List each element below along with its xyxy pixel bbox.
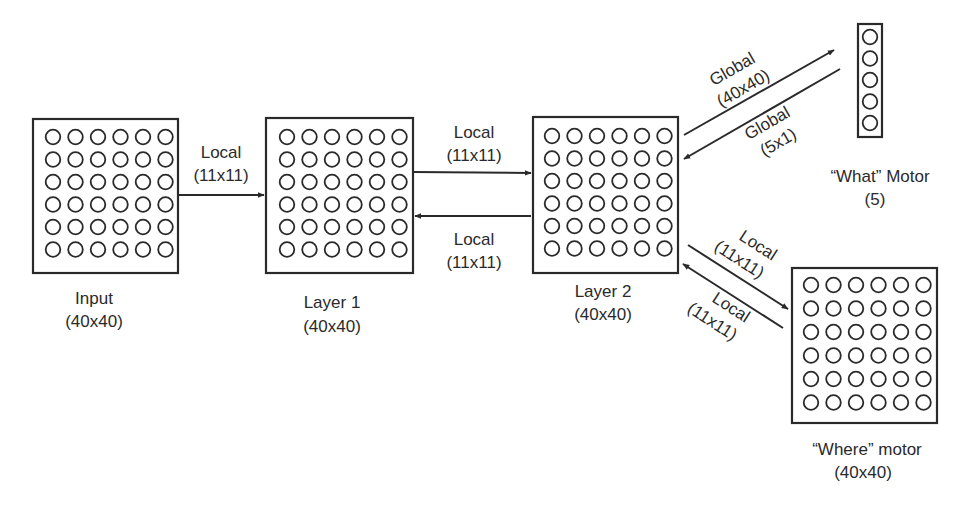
neuron-unit [804,348,819,363]
neuron-unit [280,152,295,167]
where-motor-size: (40x40) [834,463,892,482]
neuron-unit [826,348,841,363]
neuron-unit [635,196,650,211]
neuron-unit [871,395,886,410]
neuron-unit [612,174,627,189]
neuron-unit [302,175,317,190]
neuron-unit [392,242,407,257]
neuron-unit [635,174,650,189]
neuron-unit [158,242,173,257]
neuron-unit [91,152,106,167]
neuron-unit [136,220,151,235]
neuron-unit [916,301,931,316]
conn-layer1-layer2-size: (11x11) [446,146,501,165]
neuron-unit [849,278,864,293]
neuron-unit [916,325,931,340]
neuron-unit [347,152,362,167]
what-motor-box [858,24,882,137]
neuron-unit [871,301,886,316]
neuron-unit [871,278,886,293]
neuron-unit [370,152,385,167]
layer1-size: (40x40) [303,317,361,336]
neuron-unit [826,395,841,410]
neuron-unit [136,197,151,212]
neuron-unit [545,129,560,144]
neuron-unit [325,197,340,212]
neuron-unit [849,301,864,316]
neuron-unit [113,220,128,235]
neuron-unit [113,242,128,257]
what-motor-size: (5) [865,190,886,209]
neuron-unit [849,395,864,410]
neuron-unit [91,242,106,257]
neuron-unit [68,152,83,167]
neuron-unit [302,130,317,145]
neuron-unit [863,30,878,45]
neuron-unit [280,130,295,145]
neuron-unit [68,220,83,235]
neuron-unit [91,220,106,235]
neuron-unit [826,301,841,316]
neuron-unit [370,197,385,212]
neuron-unit [635,241,650,256]
neuron-unit [392,152,407,167]
neuron-unit [158,220,173,235]
neuron-unit [113,130,128,145]
neuron-unit [849,372,864,387]
network-diagram: Input (40x40) Layer 1 (40x40) Layer 2 (4… [0,0,970,506]
neuron-unit [849,348,864,363]
neuron-unit [804,372,819,387]
where-motor-label: “Where” motor [812,440,922,459]
neuron-unit [590,129,605,144]
neuron-unit [916,348,931,363]
neuron-unit [894,395,909,410]
neuron-unit [136,175,151,190]
neuron-unit [68,175,83,190]
neuron-unit [657,241,672,256]
neuron-unit [46,197,61,212]
input-size: (40x40) [65,312,123,331]
neuron-unit [826,372,841,387]
neuron-unit [863,73,878,88]
neuron-unit [113,197,128,212]
neuron-unit [347,130,362,145]
neuron-unit [325,242,340,257]
neuron-unit [804,278,819,293]
neuron-unit [347,175,362,190]
neuron-unit [863,116,878,131]
neuron-unit [567,219,582,234]
layer2-size: (40x40) [574,305,632,324]
neuron-unit [657,174,672,189]
neuron-unit [68,130,83,145]
neuron-unit [370,175,385,190]
neuron-unit [804,395,819,410]
neuron-unit [916,372,931,387]
neuron-unit [46,175,61,190]
what-motor-label: “What” Motor [830,167,930,186]
neuron-unit [46,130,61,145]
neuron-unit [612,219,627,234]
layer2-label: Layer 2 [575,282,632,301]
neuron-unit [894,372,909,387]
neuron-unit [392,197,407,212]
neuron-unit [280,197,295,212]
neuron-unit [302,152,317,167]
neuron-unit [370,242,385,257]
neuron-unit [590,174,605,189]
neuron-unit [347,197,362,212]
neuron-unit [612,196,627,211]
neuron-unit [657,219,672,234]
conn-layer1-layer2-type: Local [454,123,495,142]
conn-input-layer1-type: Local [201,143,242,162]
neuron-unit [894,278,909,293]
neuron-unit [280,175,295,190]
conn-input-layer1-size: (11x11) [193,166,248,185]
neuron-unit [849,325,864,340]
neuron-unit [894,301,909,316]
neuron-unit [302,220,317,235]
neuron-unit [136,242,151,257]
neuron-unit [635,129,650,144]
neuron-unit [113,175,128,190]
neuron-unit [46,152,61,167]
neuron-unit [158,197,173,212]
